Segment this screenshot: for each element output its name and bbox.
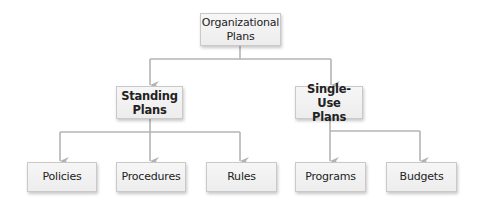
node-programs: Programs: [295, 162, 366, 192]
node-label: Standing Plans: [121, 89, 178, 117]
node-label: Policies: [42, 170, 81, 184]
node-label: Organizational Plans: [202, 16, 279, 44]
node-single-use-plans: Single-Use Plans: [295, 86, 363, 119]
node-label: Procedures: [122, 170, 181, 184]
node-label: Single-Use Plans: [296, 82, 362, 124]
node-procedures: Procedures: [116, 162, 186, 192]
node-label: Programs: [305, 170, 356, 184]
node-organizational-plans: Organizational Plans: [200, 13, 281, 46]
node-budgets: Budgets: [386, 162, 457, 192]
org-plans-diagram: Organizational Plans Standing Plans Sing…: [0, 0, 481, 205]
node-label: Budgets: [400, 170, 444, 184]
node-standing-plans: Standing Plans: [116, 86, 183, 119]
node-label: Rules: [227, 170, 256, 184]
node-policies: Policies: [27, 162, 97, 192]
node-rules: Rules: [206, 162, 277, 192]
